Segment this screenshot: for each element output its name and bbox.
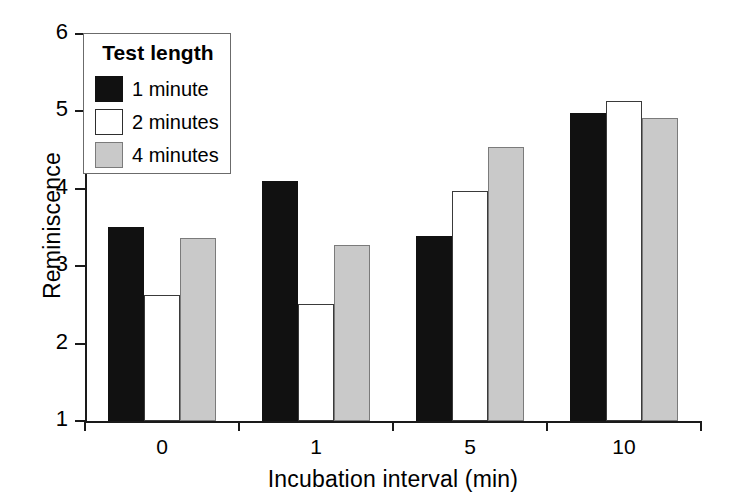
bar-chart-figure: 123456 Reminiscence 01510 Incubation int… — [0, 0, 736, 501]
x-tick-mark — [238, 421, 240, 431]
y-tick-mark — [75, 188, 85, 190]
bar-1-1-minute — [262, 181, 298, 421]
x-tick-label: 1 — [286, 436, 346, 458]
bar-5-2-minutes — [452, 191, 488, 421]
x-tick-mark — [84, 421, 86, 431]
legend-title: Test length — [84, 41, 232, 65]
legend-label-1-minute: 1 minute — [132, 79, 209, 99]
legend-swatch-2-minutes — [95, 109, 123, 135]
x-tick-label: 10 — [594, 436, 654, 458]
bar-5-1-minute — [416, 236, 452, 421]
x-tick-mark — [392, 421, 394, 431]
y-tick-mark — [75, 343, 85, 345]
x-tick-mark — [700, 421, 702, 431]
legend-swatch-4-minutes — [95, 142, 123, 168]
legend-label-2-minutes: 2 minutes — [132, 112, 219, 132]
y-tick-label: 6 — [38, 21, 68, 43]
legend-box: Test length 1 minute 2 minutes 4 minutes — [83, 33, 231, 174]
legend-label-4-minutes: 4 minutes — [132, 145, 219, 165]
x-tick-mark — [546, 421, 548, 431]
bar-0-1-minute — [108, 227, 144, 421]
legend-item-4-minutes: 4 minutes — [95, 139, 219, 171]
x-tick-label: 5 — [440, 436, 500, 458]
bar-10-4-minutes — [642, 118, 678, 421]
x-axis-title: Incubation interval (min) — [85, 466, 701, 493]
bar-1-4-minutes — [334, 245, 370, 421]
bar-0-2-minutes — [144, 295, 180, 421]
y-axis-title: Reminiscence — [39, 96, 66, 356]
bar-0-4-minutes — [180, 238, 216, 421]
bar-10-2-minutes — [606, 101, 642, 421]
y-tick-label: 1 — [38, 408, 68, 430]
legend-item-2-minutes: 2 minutes — [95, 106, 219, 138]
bar-5-4-minutes — [488, 147, 524, 421]
bar-1-2-minutes — [298, 304, 334, 421]
legend-swatch-1-minute — [95, 76, 123, 102]
bar-10-1-minute — [570, 113, 606, 421]
y-tick-mark — [75, 265, 85, 267]
x-tick-label: 0 — [132, 436, 192, 458]
legend-item-1-minute: 1 minute — [95, 73, 209, 105]
